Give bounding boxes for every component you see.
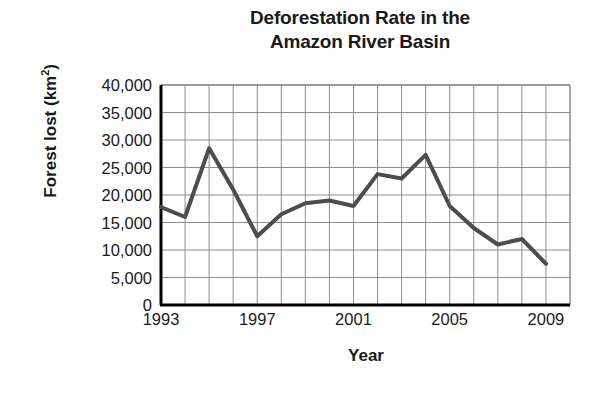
grid-lines <box>161 85 570 305</box>
plot-area <box>0 0 600 398</box>
chart-figure: Deforestation Rate in the Amazon River B… <box>0 0 600 398</box>
